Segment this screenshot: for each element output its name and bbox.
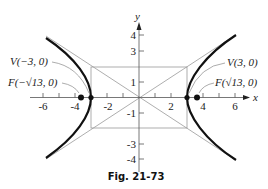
focus-left-leader [62,83,79,93]
y-axis-label: y [134,10,140,22]
y-tick-label: 4 [131,29,137,41]
hyperbola-diagram: -6 -4 -2 2 4 6 4 3 1 -1 -3 -4 x y V(−3, … [0,0,268,189]
x-tick-label: -4 [70,100,80,112]
vertex-right-label: V(3, 0) [227,56,258,69]
vertex-left-leader [52,62,89,93]
figure-caption: Fig. 21-73 [2,171,268,182]
y-tick-label: -4 [127,153,137,165]
vertex-left-label: V(−3, 0) [10,55,48,68]
x-tick-label: 6 [232,100,238,112]
vertex-right-point [184,95,189,100]
focus-left-label: F(−√13, 0) [7,76,58,89]
focus-left-point [78,95,84,101]
x-axis-arrow-icon [243,95,250,100]
focus-right-leader [199,83,214,93]
x-tick-label: -2 [103,100,112,112]
x-axis-label: x [252,91,258,103]
x-tick-label: 2 [168,100,174,112]
hyperbola-left-branch [46,38,91,158]
y-tick-label: -3 [127,138,137,150]
vertex-left-point [88,95,93,100]
focus-right-label: F(√13, 0) [214,76,257,89]
y-tick-label: 3 [131,45,137,57]
y-axis-arrow-icon [137,22,142,30]
y-tick-label: 1 [131,76,137,88]
x-tick-label: -6 [38,100,48,112]
focus-right-point [194,95,200,101]
x-tick-label: 4 [200,100,206,112]
y-tick-label: -1 [127,107,136,119]
